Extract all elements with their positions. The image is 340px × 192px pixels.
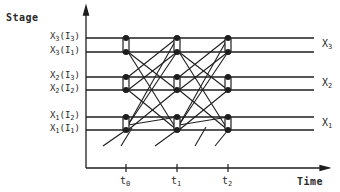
y-axis-arrow-icon xyxy=(84,6,89,15)
stage-group-label-x2: X2 xyxy=(322,78,332,88)
axes xyxy=(84,6,330,171)
x-axis-arrow-icon xyxy=(320,166,329,171)
stage-label-x3_i1: X3(I1) xyxy=(20,46,80,55)
node-pair-t2-x3 xyxy=(225,35,231,55)
stage-group-label-x1: X1 xyxy=(322,118,332,128)
tick-label-t1: t1 xyxy=(171,176,181,186)
stage-label-x1_i2: X1(I2) xyxy=(20,111,80,120)
node-pair-t0-x2 xyxy=(123,74,129,93)
transition-edge xyxy=(155,130,177,146)
stage-lines xyxy=(86,38,314,130)
state-nodes xyxy=(123,35,231,133)
tick-label-t0: t0 xyxy=(120,176,130,186)
stage-group-label-x3: X3 xyxy=(322,39,332,49)
x-axis-title: Time xyxy=(297,177,323,187)
stage-label-x2_i3: X2(I3) xyxy=(20,71,80,80)
node-pair-t0-x1 xyxy=(123,114,129,133)
stage-label-x2_i2: X2(I2) xyxy=(20,84,80,93)
transition-edge xyxy=(128,38,177,125)
diagram-canvas xyxy=(0,0,340,192)
transition-edge xyxy=(179,38,228,125)
y-axis-title: Stage xyxy=(6,13,39,23)
node-pair-t1-x3 xyxy=(174,35,180,55)
transition-edge xyxy=(215,130,228,146)
node-pair-t1-x2 xyxy=(174,74,180,93)
stage-time-diagram: Stage Time X3(I3)X3(I1)X2(I3)X2(I2)X1(I2… xyxy=(0,0,340,192)
node-pair-t2-x2 xyxy=(225,74,231,93)
tick-label-t2: t2 xyxy=(222,176,232,186)
stage-label-x3_i3: X3(I3) xyxy=(20,32,80,41)
stage-label-x1_i1: X1(I1) xyxy=(20,124,80,133)
node-pair-t1-x1 xyxy=(174,114,180,133)
node-pair-t2-x1 xyxy=(225,114,231,133)
node-pair-t0-x3 xyxy=(123,35,129,55)
